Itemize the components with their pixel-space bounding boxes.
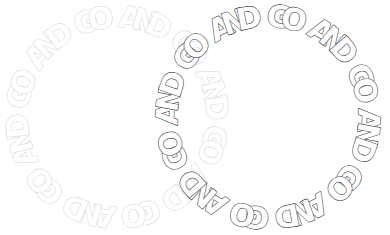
ring-letter: N <box>284 192 319 233</box>
ring-letter: N <box>194 77 234 110</box>
ring-letter: D <box>140 5 177 47</box>
ring-letter: O <box>318 167 361 210</box>
ring-letter: A <box>296 185 334 227</box>
ring-letter: O <box>18 160 61 202</box>
ring-letter: O <box>150 126 190 160</box>
circular-text-ring-right: ANDGOANDGOANDGOANDGOANDGOANDGO <box>0 0 390 235</box>
ring-letter: N <box>181 172 223 215</box>
ring-letter: G <box>328 156 371 197</box>
left-ring-svg: GOANDGOANDGOANDGOANDGOANDGOAND <box>0 0 390 235</box>
ring-letter: A <box>4 137 45 172</box>
ring-letter: N <box>128 1 162 42</box>
ring-letter: A <box>175 158 217 198</box>
ring-letter: A <box>149 100 185 125</box>
ring-letter: D <box>39 14 80 57</box>
ring-letter: N <box>149 83 188 114</box>
ring-letter: N <box>72 193 106 234</box>
ring-letter: D <box>233 0 264 37</box>
ring-letter: A <box>117 0 145 37</box>
ring-letter: N <box>27 23 69 66</box>
ring-letter: N <box>348 120 387 151</box>
ring-letter: G <box>339 58 381 95</box>
ring-letter: D <box>170 162 213 204</box>
ring-letter: N <box>165 168 207 211</box>
right-ring-glyph-group: ANDGOANDGOANDGOANDGOANDGOANDGO <box>149 0 387 235</box>
ring-letter: G <box>29 170 71 212</box>
ring-letter: O <box>277 0 311 40</box>
ring-letter: D <box>56 187 93 229</box>
ring-letter: G <box>243 199 271 235</box>
ring-letter: A <box>189 62 230 97</box>
ring-letter: A <box>302 10 341 52</box>
left-ring-glyph-group: GOANDGOANDGOANDGOANDGOANDGOAND <box>0 0 235 235</box>
ring-letter: D <box>154 177 195 220</box>
ring-letter: A <box>17 35 59 75</box>
ring-letter: D <box>0 112 36 140</box>
ring-letter: O <box>225 194 259 234</box>
ring-letter: G <box>69 1 103 42</box>
ring-letter: O <box>345 74 385 108</box>
ring-letter: G <box>195 122 234 153</box>
ring-letter: D <box>198 94 235 122</box>
ring-letter: O <box>173 33 216 75</box>
ring-letter: A <box>351 108 387 133</box>
ring-letter: O <box>85 0 116 38</box>
ring-letter: A <box>202 7 240 49</box>
ring-letter: G <box>0 81 39 112</box>
ring-letter: O <box>175 24 218 67</box>
ring-letter: N <box>313 19 355 62</box>
artwork-canvas: GOANDGOANDGOANDGOANDGOANDGOAND ANDGOANDG… <box>0 0 390 235</box>
ring-letter: A <box>89 197 117 235</box>
ring-letter: G <box>265 0 293 35</box>
right-ring-svg: ANDGOANDGOANDGOANDGOANDGOANDGO <box>0 0 390 235</box>
ring-letter: D <box>343 133 384 168</box>
ring-letter: D <box>271 197 302 235</box>
ring-letter: O <box>118 196 149 235</box>
ring-letter: G <box>155 139 197 176</box>
ring-letter: O <box>3 64 45 100</box>
ring-letter: G <box>131 192 165 233</box>
ring-letter: N <box>217 1 252 42</box>
ring-letter: A <box>195 181 234 223</box>
ring-letter: O <box>190 134 232 170</box>
ring-letter: N <box>0 124 40 157</box>
ring-letter: D <box>152 66 193 101</box>
ring-letter: D <box>323 30 366 72</box>
ring-letter: G <box>165 37 208 78</box>
circular-text-ring-left: GOANDGOANDGOANDGOANDGOANDGOAND <box>0 0 390 235</box>
ring-letter: G <box>163 21 205 63</box>
